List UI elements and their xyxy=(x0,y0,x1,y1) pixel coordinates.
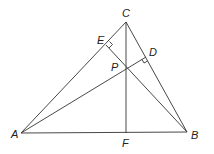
label-f: F xyxy=(122,137,130,149)
label-p: P xyxy=(111,61,119,73)
label-c: C xyxy=(122,7,130,19)
right-angle-mark-e xyxy=(109,42,113,49)
label-e: E xyxy=(97,34,105,46)
side-ab xyxy=(21,132,187,133)
label-d: D xyxy=(149,46,157,58)
side-bc xyxy=(126,22,187,132)
label-a: A xyxy=(10,128,18,140)
geometry-diagram: C E D P A B F xyxy=(0,0,214,154)
side-ca xyxy=(21,22,126,133)
label-b: B xyxy=(191,129,198,141)
